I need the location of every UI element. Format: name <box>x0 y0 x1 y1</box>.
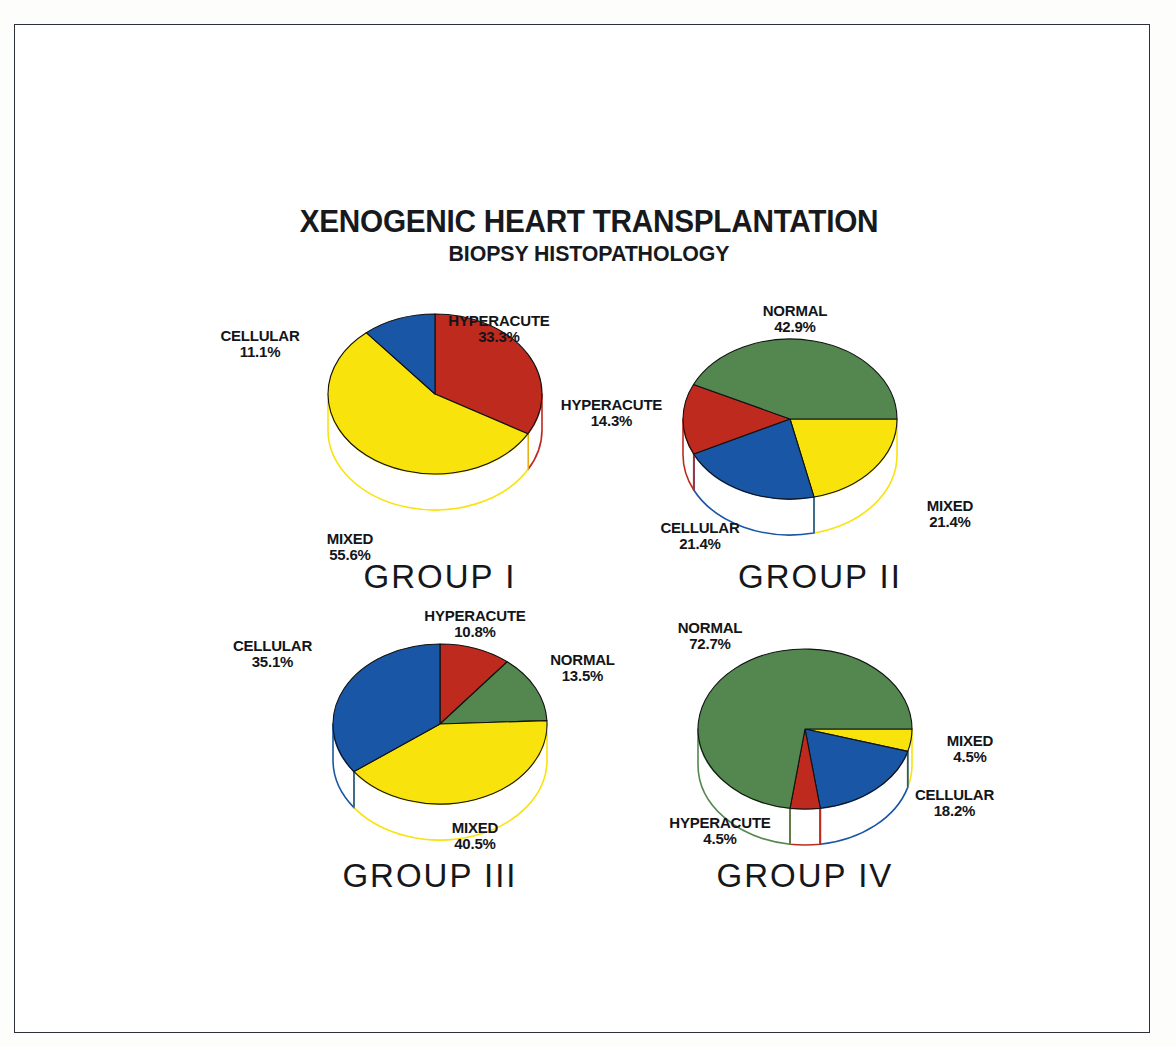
pie-label-group-1-cellular: CELLULAR 11.1% <box>195 328 325 360</box>
group-caption-4: GROUP IV <box>680 857 930 895</box>
label-name: CELLULAR <box>233 637 312 654</box>
label-name: NORMAL <box>763 302 828 319</box>
pie-label-group-3-hyperacute: HYPERACUTE 10.8% <box>390 608 560 640</box>
label-value: 21.4% <box>630 536 770 552</box>
label-value: 10.8% <box>390 624 560 640</box>
label-value: 35.1% <box>205 654 340 670</box>
pie-label-group-2-cellular: CELLULAR 21.4% <box>630 520 770 552</box>
label-value: 4.5% <box>915 749 1025 765</box>
pie-label-group-4-normal: NORMAL 72.7% <box>645 620 775 652</box>
label-name: CELLULAR <box>220 327 299 344</box>
pie-label-group-4-hyperacute: HYPERACUTE 4.5% <box>635 815 805 847</box>
label-value: 4.5% <box>635 831 805 847</box>
label-name: NORMAL <box>550 651 615 668</box>
page-title: XENOGENIC HEART TRANSPLANTATION <box>25 206 1154 237</box>
pie-label-group-4-mixed: MIXED 4.5% <box>915 733 1025 765</box>
poster-canvas: XENOGENIC HEART TRANSPLANTATION BIOPSY H… <box>0 0 1176 1047</box>
pie-label-group-4-cellular: CELLULAR 18.2% <box>887 787 1022 819</box>
pie-label-group-2-mixed: MIXED 21.4% <box>895 498 1005 530</box>
pie-label-group-2-hyperacute: HYPERACUTE 14.3% <box>539 397 684 429</box>
label-name: MIXED <box>927 497 974 514</box>
label-name: HYPERACUTE <box>561 396 662 413</box>
label-name: CELLULAR <box>660 519 739 536</box>
label-value: 18.2% <box>887 803 1022 819</box>
label-value: 72.7% <box>645 636 775 652</box>
poster-frame: XENOGENIC HEART TRANSPLANTATION BIOPSY H… <box>14 24 1150 1033</box>
group-caption-1: GROUP I <box>315 558 565 596</box>
label-name: MIXED <box>947 732 994 749</box>
label-name: MIXED <box>452 819 499 836</box>
label-value: 13.5% <box>520 668 645 684</box>
title-block: XENOGENIC HEART TRANSPLANTATION BIOPSY H… <box>1 206 1176 265</box>
pie-label-group-2-normal: NORMAL 42.9% <box>715 303 875 335</box>
label-name: NORMAL <box>678 619 743 636</box>
pie-label-group-3-mixed: MIXED 40.5% <box>415 820 535 852</box>
page-subtitle: BIOPSY HISTOPATHOLOGY <box>19 243 1160 265</box>
label-value: 42.9% <box>715 319 875 335</box>
label-name: HYPERACUTE <box>448 312 549 329</box>
label-name: MIXED <box>327 530 374 547</box>
label-name: CELLULAR <box>915 786 994 803</box>
pie-label-group-3-normal: NORMAL 13.5% <box>520 652 645 684</box>
group-caption-2: GROUP II <box>695 558 945 596</box>
label-value: 11.1% <box>195 344 325 360</box>
label-name: HYPERACUTE <box>424 607 525 624</box>
label-value: 33.3% <box>409 329 589 345</box>
label-value: 21.4% <box>895 514 1005 530</box>
group-caption-3: GROUP III <box>305 857 555 895</box>
label-value: 40.5% <box>415 836 535 852</box>
label-name: HYPERACUTE <box>669 814 770 831</box>
pie-label-group-1-hyperacute: HYPERACUTE 33.3% <box>409 313 589 345</box>
label-value: 14.3% <box>539 413 684 429</box>
pie-label-group-3-cellular: CELLULAR 35.1% <box>205 638 340 670</box>
